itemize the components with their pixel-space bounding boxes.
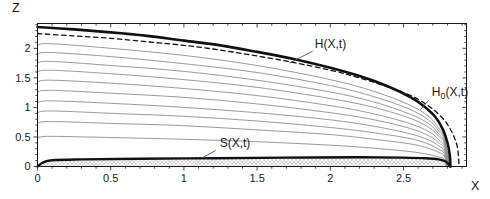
x-tick-label: 1 [181,172,187,184]
label-part: (X,t) [445,85,468,99]
curve-snapshot-3 [38,61,450,166]
x-tick-label: 2 [327,172,333,184]
y-tick-label: 0 [24,160,30,172]
x-tick-label: 1.5 [249,172,264,184]
leader-line-S [202,151,216,158]
x-tick-label: 2.5 [396,172,411,184]
curve-label-H: H(X,t) [315,37,346,51]
y-tick-label: 0.5 [15,131,30,143]
y-tick-label: 1 [24,101,30,113]
curve-label-S: S(X,t) [220,136,251,150]
label-part: S(X,t) [220,136,251,150]
y-tick-label: 1.5 [15,72,30,84]
label-part: H [432,85,441,99]
y-axis-label: Z [12,2,20,14]
label-part: H(X,t) [315,37,346,51]
figure-canvas: Z X 00.511.522.500.511.52H(X,t)H0(X,t)S(… [0,0,490,199]
y-tick-label: 2 [24,42,30,54]
x-axis-label: X [471,180,479,192]
plot-area: 00.511.522.500.511.52H(X,t)H0(X,t)S(X,t) [0,0,490,199]
x-tick-label: 0 [34,172,40,184]
curve-label-H0: H0(X,t) [432,85,468,101]
x-tick-label: 0.5 [103,172,118,184]
